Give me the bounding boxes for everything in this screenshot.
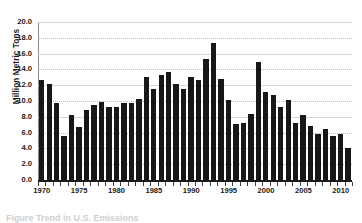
x-tick [330,182,331,186]
x-tick-label: 1975 [59,187,99,195]
y-tick-label: 4.0 [2,144,32,152]
bar-slot [105,22,112,180]
bar-1988 [173,84,178,180]
x-tick-label: 1985 [134,187,174,195]
bar-slot [217,22,224,180]
x-tick [292,182,293,186]
bar-slot [113,22,120,180]
bar-slot [322,22,329,180]
x-tick-label: 1995 [209,187,249,195]
bar-slot [299,22,306,180]
x-tick [322,182,323,186]
bar-1985 [151,89,156,180]
bar-slot [292,22,299,180]
x-axis-tick-labels: 197019751980198519901995200020052010 [38,187,352,199]
x-tick [240,182,241,186]
bar-slot [329,22,336,180]
bar-slot [165,22,172,180]
bar-1984 [144,77,149,180]
bar-slot [68,22,75,180]
bar-2000 [263,92,268,180]
x-tick [128,182,129,186]
bar-slot [38,22,45,180]
bar-1978 [99,102,104,180]
y-tick-label: 2.0 [2,160,32,168]
x-tick [217,182,218,186]
bar-series [38,22,352,180]
bar-2006 [308,126,313,181]
bar-2008 [323,129,328,180]
bar-1977 [91,105,96,180]
bar-1999 [256,62,261,181]
x-tick [247,182,248,186]
bar-2002 [278,107,283,180]
x-tick [135,182,136,186]
bar-1990 [188,77,193,180]
x-tick [352,182,353,186]
y-tick-label: 14.0 [2,65,32,73]
bar-slot [172,22,179,180]
bar-slot [187,22,194,180]
x-tick [143,182,144,186]
bar-slot [60,22,67,180]
bar-1975 [76,127,81,180]
x-tick [165,182,166,186]
bar-2005 [300,115,305,180]
x-tick [315,182,316,186]
bar-slot [210,22,217,180]
y-tick-label: 18.0 [2,34,32,42]
bar-1997 [241,123,246,180]
x-tick [210,182,211,186]
bar-slot [232,22,239,180]
bar-2010 [338,134,343,180]
y-tick-label: 6.0 [2,129,32,137]
figure-caption: Figure Trend in U.S. Emissions [6,213,356,223]
bar-2004 [293,123,298,180]
y-tick-label: 10.0 [2,97,32,105]
bar-1991 [196,80,201,180]
x-tick-label: 2010 [321,187,361,195]
bar-1998 [248,114,253,180]
bar-slot [195,22,202,180]
bar-slot [247,22,254,180]
x-tick [53,182,54,186]
bar-2007 [315,134,320,180]
bar-slot [158,22,165,180]
bar-1995 [226,100,231,180]
bar-1983 [136,99,141,180]
bar-slot [255,22,262,180]
x-tick-label: 1980 [97,187,137,195]
bar-slot [53,22,60,180]
bar-slot [120,22,127,180]
y-tick-label: 20.0 [2,18,32,26]
bar-1979 [106,107,111,180]
x-tick [90,182,91,186]
x-tick [180,182,181,186]
bar-slot [150,22,157,180]
bar-slot [90,22,97,180]
bar-slot [262,22,269,180]
bar-slot [270,22,277,180]
bar-1993 [211,43,216,180]
bar-1971 [47,84,52,180]
bar-1972 [54,103,59,180]
bar-slot [277,22,284,180]
bar-1970 [39,80,44,180]
bar-slot [337,22,344,180]
bar-slot [314,22,321,180]
bar-1976 [84,110,89,180]
bar-slot [45,22,52,180]
bar-2009 [330,136,335,180]
bar-1996 [233,124,238,180]
bar-1986 [159,75,164,180]
bar-slot [240,22,247,180]
plot-area: 0.02.04.06.08.010.012.014.016.018.020.0 [38,22,352,180]
bar-1981 [121,103,126,180]
bar-slot [83,22,90,180]
bar-slot [128,22,135,180]
bar-2003 [286,100,291,180]
bar-1974 [69,115,74,180]
x-tick [98,182,99,186]
x-tick [173,182,174,186]
bar-1982 [129,103,134,180]
